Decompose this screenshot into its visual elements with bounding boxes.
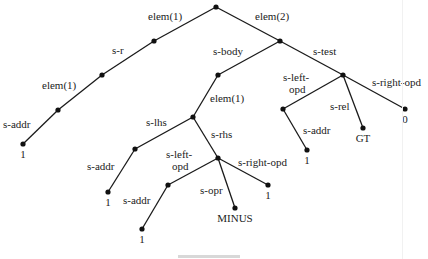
tree-diagram: elem(1)s-relem(1)s-addrelem(2)s-bodys-te… [0,0,428,259]
edge-labels: elem(1)s-relem(1)s-addrelem(2)s-bodys-te… [3,10,421,206]
edge-label: s-opr [200,184,223,196]
leaf-node [265,182,270,187]
tree-node [190,114,195,119]
tree-node [340,72,345,77]
edge-label: s-r [112,44,124,56]
leaf-node [402,106,407,111]
tree-node [55,107,60,112]
edge-label: s-left-opd [283,71,310,95]
tree-node [215,155,220,160]
edge-label: elem(1) [148,10,183,23]
edge-label: s-body [213,45,243,57]
leaf-node [304,147,309,152]
leaf-value: 1 [265,189,271,201]
edge-label: elem(1) [42,79,77,92]
tree-node [280,106,285,111]
tree-node [215,72,220,77]
leaf-node [360,125,365,130]
edge-label: s-addr [3,118,31,130]
edge-label: elem(2) [255,10,290,23]
leaf-node [105,189,110,194]
edge-label: elem(1) [210,92,245,105]
edge-label: s-rhs [211,128,232,140]
tree-node [99,72,104,77]
edge-label: s-rel [330,100,350,112]
edge-label: s-right-opd [238,156,287,168]
edge-label: s-right-opd [372,76,421,88]
edge-label: s-addr [87,160,115,172]
leaf-value: 1 [20,148,26,160]
tree-node [277,38,282,43]
leaf-value: GT [356,132,371,144]
figure-caption-cutoff [178,255,240,258]
tree-edge [102,41,154,75]
leaf-value: MINUS [217,212,252,224]
leaf-node [232,205,237,210]
leaf-node [139,226,144,231]
edge-label: s-addr [303,124,331,136]
tree-node [151,38,156,43]
leaf-value: 1 [105,196,111,208]
tree-node [132,146,137,151]
tree-nodes [20,4,407,231]
leaf-value: 0 [402,113,408,125]
edge-label: s-test [313,45,336,57]
leaf-value: 1 [139,233,145,245]
edge-label: s-left-opd [166,148,193,172]
tree-node [165,182,170,187]
edge-label: s-lhs [146,116,167,128]
page-fold-line [402,0,403,259]
leaf-value: 1 [304,154,310,166]
tree-edge [142,185,168,229]
edge-label: s-addr [123,194,151,206]
leaf-node [20,141,25,146]
tree-node [213,4,218,9]
